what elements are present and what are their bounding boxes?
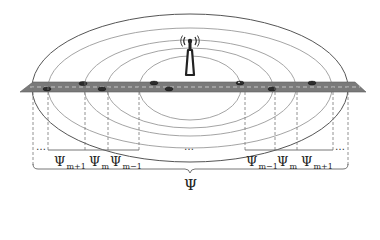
car-icon — [43, 87, 51, 91]
label-base: Ψ — [277, 154, 288, 169]
label-sub: m−1 — [122, 162, 141, 171]
ellipsis-right: … — [335, 142, 345, 152]
ellipsis-center: … — [184, 142, 194, 152]
label-sub: m+1 — [66, 162, 85, 171]
label-base: Ψ — [89, 154, 100, 169]
label-base: Ψ — [301, 154, 312, 169]
car-icon — [308, 81, 316, 85]
label-sub: m — [289, 162, 297, 171]
label-sub: m+1 — [313, 162, 332, 171]
car-icon — [98, 87, 106, 91]
label-psi-m-right: Ψm — [277, 155, 297, 171]
car-icon — [236, 81, 244, 85]
label-sub: m — [101, 162, 109, 171]
label-sub: m−1 — [258, 162, 277, 171]
label-psi-total: Ψ — [184, 176, 197, 194]
car-icon — [150, 81, 158, 85]
label-base: Ψ — [54, 154, 65, 169]
label-psi-m-minus-1-right: Ψm−1 — [246, 155, 278, 171]
label-base: Ψ — [110, 154, 121, 169]
ellipsis-left: … — [36, 142, 46, 152]
label-psi-m-plus-1-right: Ψm+1 — [301, 155, 333, 171]
cell-tower-icon — [181, 36, 200, 76]
label-psi-m-plus-1-left: Ψm+1 — [54, 155, 86, 171]
label-psi-m-minus-1-left: Ψm−1 — [110, 155, 142, 171]
label-psi-m-left: Ψm — [89, 155, 109, 171]
car-icon — [165, 87, 173, 91]
label-base: Ψ — [246, 154, 257, 169]
car-icon — [79, 82, 87, 86]
